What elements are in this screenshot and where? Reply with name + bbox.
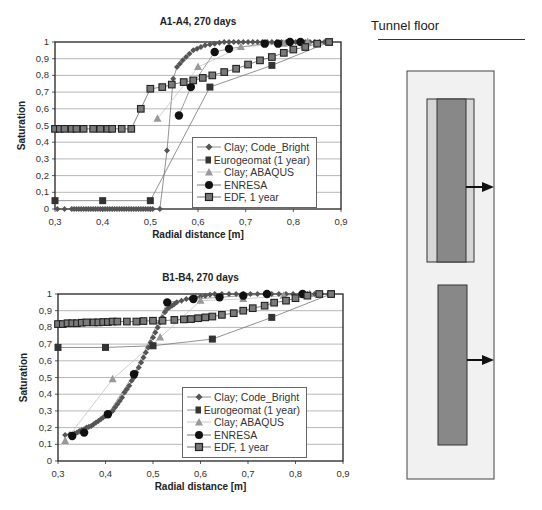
x-tick-label: 0,4: [94, 468, 118, 479]
legend-item: Clay; ABAQUS: [187, 416, 300, 429]
x-tick-label: 0,8: [284, 468, 308, 479]
heater-2: [438, 285, 467, 445]
diagram-title: Tunnel floor: [371, 18, 439, 33]
y-tick-label: 1: [28, 288, 52, 299]
y-tick-label: 0,8: [28, 321, 52, 332]
circle-marker-icon: [187, 430, 211, 440]
y-tick-label: 0,9: [28, 305, 52, 316]
buffer-outline: [427, 99, 474, 262]
square-marker-icon: [187, 405, 201, 415]
y-tick-label: 0,3: [28, 405, 52, 416]
y-tick-label: 0: [28, 455, 52, 466]
legend: Clay; Code_Bright Eurogeomat (1 year) Cl…: [182, 387, 307, 458]
x-tick-label: 0,9: [331, 468, 355, 479]
x-tick-label: 0,3: [46, 468, 70, 479]
tunnel-floor-line: [378, 39, 525, 40]
open-square-marker-icon: [187, 442, 211, 452]
legend-item: EDF, 1 year: [187, 441, 300, 454]
legend-item: Clay; Code_Bright: [187, 391, 300, 404]
triangle-marker-icon: [187, 417, 211, 427]
y-tick-label: 0,4: [28, 388, 52, 399]
legend-item: Eurogeomat (1 year): [187, 404, 300, 417]
y-axis-label: Saturation: [18, 343, 29, 413]
x-tick-label: 0,5: [141, 468, 165, 479]
y-tick-label: 0,2: [28, 422, 52, 433]
y-tick-label: 0,5: [28, 372, 52, 383]
x-tick-label: 0,6: [189, 468, 213, 479]
x-axis-label: Radial distance [m]: [58, 481, 343, 492]
y-tick-label: 0,6: [28, 355, 52, 366]
legend-item: ENRESA: [187, 429, 300, 442]
y-tick-label: 0,1: [28, 438, 52, 449]
arrow-right-icon: [482, 355, 494, 365]
diamond-marker-icon: [187, 392, 211, 402]
x-tick-label: 0,7: [236, 468, 260, 479]
y-tick-label: 0,7: [28, 338, 52, 349]
heater-1: [437, 99, 466, 262]
tunnel-section: [407, 71, 494, 479]
arrow-right-icon: [482, 182, 494, 192]
chart-b1-b4: B1-B4, 270 days Saturation Radial distan…: [0, 0, 360, 510]
